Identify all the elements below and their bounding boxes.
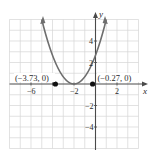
right-intercept-point [90,81,95,86]
left-point-label: (−3.73, 0) [15,73,49,83]
curve-left-arrow-icon [40,16,45,24]
x-tick-label: −6 [27,87,36,96]
y-axis-label: y [98,9,103,19]
x-tick-label: −2 [70,87,79,96]
curve-right-arrow-icon [103,16,108,24]
right-point-label: (−0.27, 0) [98,73,132,83]
y-tick-label: 2 [89,59,93,68]
y-axis-arrow-icon [93,12,98,18]
y-tick-label: 4 [89,37,93,46]
x-axis-label: x [142,86,147,96]
x-tick-label: 2 [115,87,119,96]
parabola-graph: (−3.73, 0) (−0.27, 0) −6 −2 2 x 4 2 −2 −… [0,0,155,157]
y-tick-label: −2 [85,102,94,111]
left-intercept-point [53,81,58,86]
y-tick-label: −4 [85,123,94,132]
